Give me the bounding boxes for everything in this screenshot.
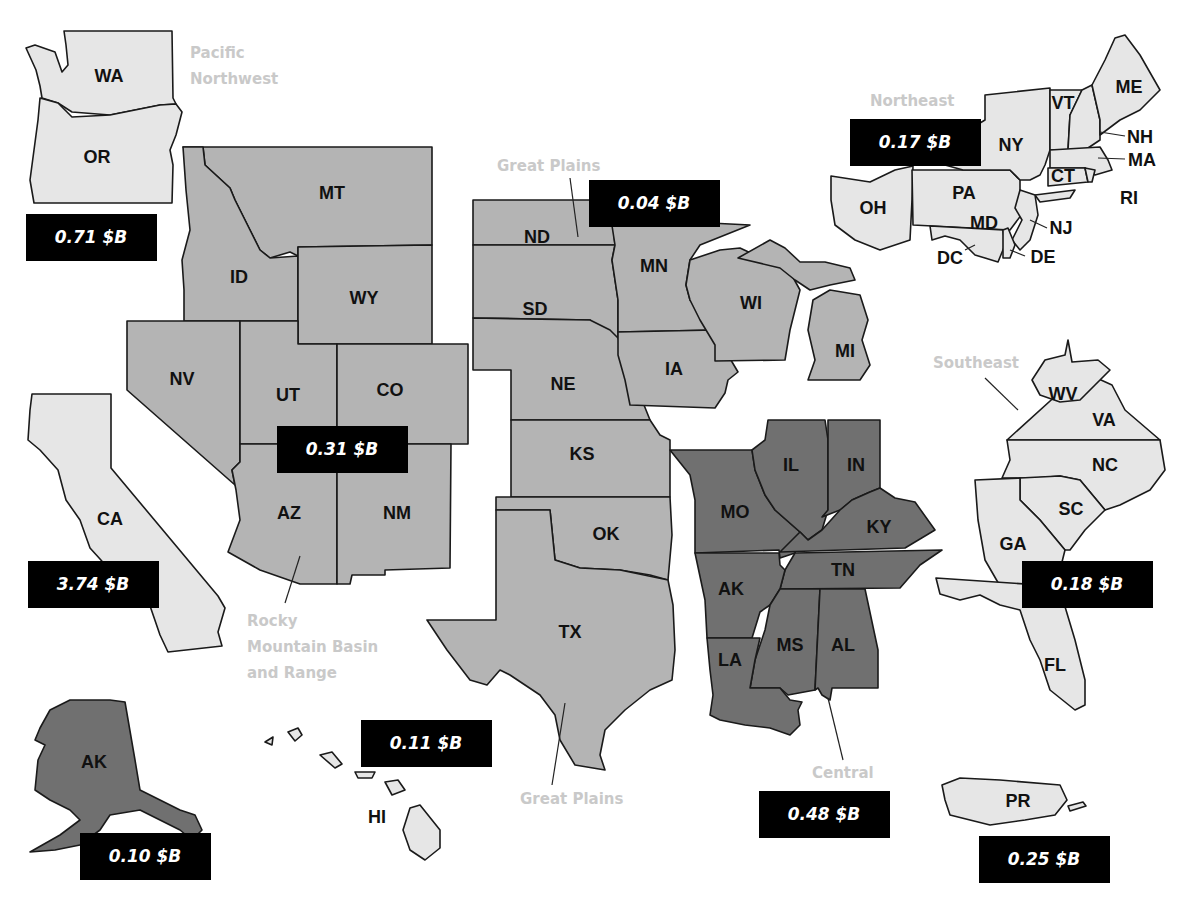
label-ny: NY [998,135,1023,155]
badge-alaska: 0.10 $B [80,833,211,880]
badge-alaska-text: 0.10 $B [109,846,182,866]
state-mi[interactable] [808,290,870,380]
badge-northeast: 0.17 $B [850,119,981,166]
badge-central: 0.48 $B [759,791,890,838]
label-al: AL [831,635,855,655]
label-tn: TN [831,560,855,580]
label-ks: KS [569,444,594,464]
label-ct: CT [1051,166,1075,186]
state-tn[interactable] [780,550,942,589]
label-sd: SD [522,299,547,319]
label-pa: PA [952,183,976,203]
region-label-plains-bottom: Great Plains [520,790,623,808]
label-ar: AK [718,579,744,599]
label-az: AZ [277,503,301,523]
badge-plains: 0.04 $B [589,180,720,227]
state-ak[interactable] [30,700,202,852]
label-ak: AK [81,752,107,772]
region-label-rocky-1: Rocky [247,612,298,630]
region-label-southeast: Southeast [933,354,1019,372]
region-label-rocky-2: Mountain Basin [247,638,378,656]
badge-central-text: 0.48 $B [788,804,861,824]
tick-nh [1100,132,1125,136]
label-in: IN [847,455,865,475]
leader-southeast [985,378,1018,410]
label-mi: MI [835,341,855,361]
island-molokai [355,772,375,778]
island-niihau [265,737,273,745]
region-label-northeast: Northeast [870,92,955,110]
label-hi: HI [368,807,386,827]
label-oh: OH [860,198,887,218]
region-label-central: Central [812,764,874,782]
label-il: IL [783,455,799,475]
label-wy: WY [350,288,379,308]
label-ri: RI [1120,188,1138,208]
badge-southeast-text: 0.18 $B [1051,574,1124,594]
us-region-map: WA OR CA MT ID WY NV UT CO AZ NM ND SD N… [0,0,1188,909]
label-wv: WV [1049,384,1078,404]
label-fl: FL [1044,655,1066,675]
label-nj: NJ [1049,218,1072,238]
island-kauai [288,728,302,741]
state-nv[interactable] [127,321,240,485]
label-id: ID [230,267,248,287]
label-ut: UT [276,385,300,405]
label-md: MD [970,213,998,233]
label-dc: DC [937,248,963,268]
region-label-plains-top: Great Plains [497,157,600,175]
region-label-rocky-3: and Range [247,664,337,682]
label-mn: MN [640,256,668,276]
badge-hawaii-text: 0.11 $B [390,733,463,753]
badge-plains-text: 0.04 $B [618,193,691,213]
badge-pr: 0.25 $B [979,836,1110,883]
badge-northeast-text: 0.17 $B [879,132,952,152]
label-ky: KY [866,517,891,537]
badge-ca: 3.74 $B [28,561,159,608]
island-oahu [320,752,342,768]
label-wa: WA [95,66,124,86]
island-maui [385,780,405,795]
state-de[interactable] [1003,228,1015,258]
state-hi[interactable] [403,805,440,860]
label-de: DE [1030,247,1055,267]
label-ne: NE [550,374,575,394]
region-pacific-northwest [26,31,182,203]
label-ia: IA [665,359,683,379]
label-nd: ND [524,227,550,247]
label-va: VA [1092,410,1116,430]
badge-hawaii: 0.11 $B [361,720,492,767]
label-or: OR [84,147,111,167]
label-nh: NH [1127,127,1153,147]
region-alaska [30,700,202,852]
region-central [670,420,942,735]
island-vieques [1068,802,1086,811]
badge-rocky: 0.31 $B [277,426,408,473]
label-nc: NC [1092,455,1118,475]
region-label-pnw-2: Northwest [190,70,278,88]
label-ok: OK [593,524,620,544]
label-tx: TX [558,622,581,642]
label-vt: VT [1051,93,1074,113]
label-sc: SC [1058,499,1083,519]
badge-southeast: 0.18 $B [1022,561,1153,608]
label-ms: MS [777,635,804,655]
badge-pnw: 0.71 $B [26,214,157,261]
label-co: CO [377,380,404,400]
badge-pnw-text: 0.71 $B [55,227,128,247]
label-nv: NV [169,369,194,389]
leader-central [828,698,843,760]
label-mt: MT [319,183,345,203]
state-li[interactable] [1035,190,1075,202]
label-mo: MO [721,502,750,522]
badge-ca-text: 3.74 $B [57,574,130,594]
label-me: ME [1116,77,1143,97]
badge-pr-text: 0.25 $B [1008,849,1081,869]
label-la: LA [718,650,742,670]
region-label-pnw-1: Pacific [190,44,245,62]
label-ca: CA [97,509,123,529]
label-nm: NM [383,503,411,523]
label-wi: WI [740,293,762,313]
label-ma: MA [1128,150,1156,170]
badge-rocky-text: 0.31 $B [306,439,379,459]
